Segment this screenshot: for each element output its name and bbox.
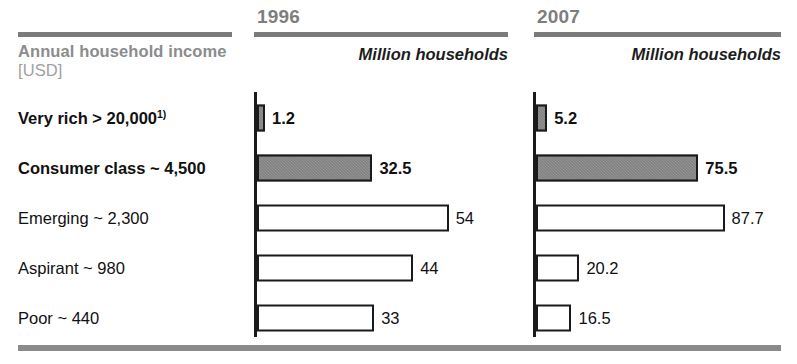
- unit-caption-2007: Million households: [632, 44, 781, 64]
- bar-value-2007-row3: 87.7: [732, 208, 764, 228]
- bar-2007-row2: [536, 155, 698, 182]
- bar-value-1996-row5: 33: [381, 308, 399, 328]
- bar-value-2007-row5: 16.5: [578, 308, 610, 328]
- bar-value-1996-row3: 54: [456, 208, 474, 228]
- chart-row: Consumer class ~ 4,50032.575.5: [0, 143, 797, 193]
- header-rule-1996: [254, 32, 508, 37]
- bar-value-2007-row2: 75.5: [705, 158, 737, 178]
- bar-1996-row3: [257, 205, 449, 232]
- row-label-4: Aspirant ~ 980: [18, 258, 125, 278]
- header-rule-left: [18, 32, 232, 37]
- bar-value-2007-row1: 5.2: [554, 108, 577, 128]
- chart-row: Very rich > 20,0001)1.25.2: [0, 93, 797, 143]
- column-header-2007: 2007: [537, 6, 580, 28]
- bar-1996-row4: [257, 255, 413, 282]
- bar-2007-row1: [536, 105, 547, 132]
- axis-title-unit: [USD]: [18, 61, 248, 80]
- row-label-footnote-marker: 1): [157, 108, 166, 120]
- chart-figure: 1996 2007 Million households Million hou…: [0, 0, 797, 364]
- bar-1996-row2: [257, 155, 372, 182]
- bar-value-1996-row1: 1.2: [272, 108, 295, 128]
- row-label-5: Poor ~ 440: [18, 308, 99, 328]
- bar-2007-row3: [536, 205, 725, 232]
- bar-1996-row5: [257, 305, 374, 332]
- bar-value-2007-row4: 20.2: [586, 258, 618, 278]
- bar-2007-row4: [536, 255, 579, 282]
- column-header-1996: 1996: [257, 6, 300, 28]
- bar-2007-row5: [536, 305, 571, 332]
- row-label-3: Emerging ~ 2,300: [18, 208, 149, 228]
- row-label-1: Very rich > 20,0001): [18, 108, 166, 128]
- chart-row: Poor ~ 4403316.5: [0, 293, 797, 343]
- chart-row: Emerging ~ 2,3005487.7: [0, 193, 797, 243]
- bar-value-1996-row4: 44: [420, 258, 438, 278]
- axis-title-text: Annual household income: [18, 42, 227, 60]
- row-label-2: Consumer class ~ 4,500: [18, 158, 206, 178]
- chart-row: Aspirant ~ 9804420.2: [0, 243, 797, 293]
- unit-caption-1996: Million households: [359, 44, 508, 64]
- bar-1996-row1: [257, 105, 265, 132]
- footer-rule: [18, 345, 781, 351]
- bar-value-1996-row2: 32.5: [379, 158, 411, 178]
- axis-title-income: Annual household income [USD]: [18, 42, 248, 80]
- header-rule-2007: [534, 32, 781, 37]
